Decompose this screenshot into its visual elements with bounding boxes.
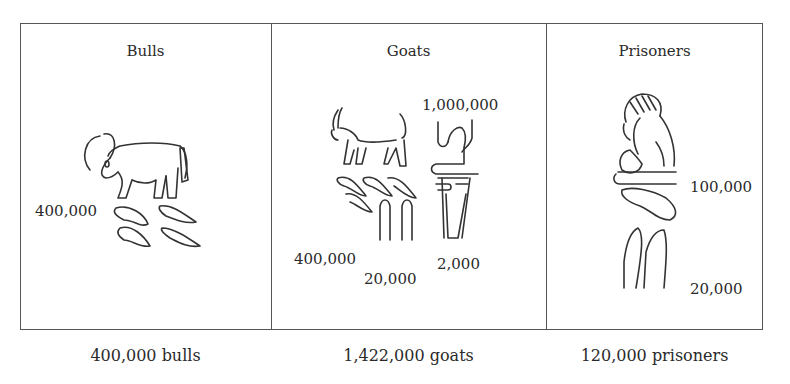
bull-pictogram-icon	[80, 128, 210, 278]
numeral-label: 400,000	[294, 250, 356, 268]
goat-pictogram-icon	[328, 100, 428, 250]
numeral-label: 100,000	[690, 178, 752, 196]
numeral-label: 1,000,000	[422, 96, 498, 114]
panel-title: Bulls	[20, 42, 271, 60]
numeral-label: 20,000	[364, 270, 417, 288]
panel-caption: 400,000 bulls	[20, 346, 271, 365]
numeral-label: 20,000	[690, 280, 743, 298]
panel-caption: 1,422,000 goats	[271, 346, 546, 365]
panel-title: Goats	[271, 42, 546, 60]
prisoner-pictogram-icon	[612, 92, 692, 302]
one-million-numeral-icon	[428, 118, 488, 248]
numeral-label: 2,000	[437, 255, 480, 273]
panel-caption: 120,000 prisoners	[546, 346, 763, 365]
panel-title: Prisoners	[546, 42, 763, 60]
